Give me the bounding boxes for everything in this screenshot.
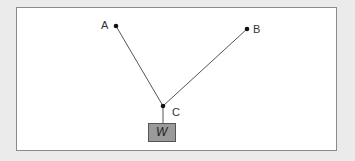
label-c: C (172, 106, 180, 118)
label-a: A (101, 19, 108, 31)
rope-ac (116, 26, 163, 106)
point-c (161, 104, 166, 109)
weight-label: W (156, 125, 167, 139)
point-a (114, 24, 119, 29)
point-b (245, 27, 250, 32)
label-b: B (253, 23, 260, 35)
diagram-canvas (0, 0, 355, 161)
rope-bc (163, 29, 247, 106)
